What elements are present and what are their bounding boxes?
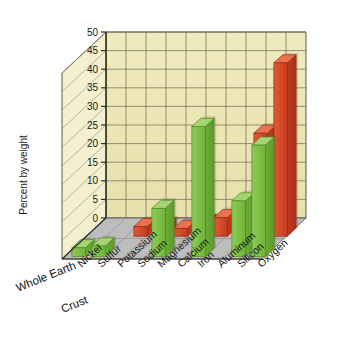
y-axis-tick-label: 0 <box>92 213 98 224</box>
chart-3d-element-composition: 05101520253035404550 NickelSulfurPotassi… <box>0 0 340 351</box>
y-axis-tick-label: 45 <box>87 45 99 56</box>
series-depth-labels: Whole EarthCrust <box>14 259 90 315</box>
bar-side-face <box>287 55 296 237</box>
y-axis-tick-label: 25 <box>87 120 99 131</box>
series-label-whole-earth: Whole Earth <box>14 259 77 294</box>
y-axis-tick-label: 5 <box>92 194 98 205</box>
y-axis-tick-label: 35 <box>87 82 99 93</box>
y-axis-tick-label: 15 <box>87 157 99 168</box>
bar-side-face <box>265 137 274 257</box>
y-axis-tick-label: 20 <box>87 138 99 149</box>
y-axis-tick-label: 30 <box>87 101 99 112</box>
series-label-crust: Crust <box>59 293 90 315</box>
y-axis-tick-label: 40 <box>87 64 99 75</box>
y-axis-title: Percent by weight <box>18 135 29 215</box>
bar-crust-oxygen <box>274 53 298 237</box>
chart-canvas: 05101520253035404550 NickelSulfurPotassi… <box>0 0 340 351</box>
y-axis-tick-label: 50 <box>87 27 99 38</box>
bar-side-face <box>205 118 214 256</box>
y-axis-tick-label: 10 <box>87 175 99 186</box>
